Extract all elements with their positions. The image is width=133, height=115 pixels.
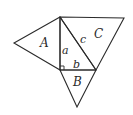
triangle-A xyxy=(14,17,60,70)
label-B: B xyxy=(72,75,82,89)
label-b: b xyxy=(73,58,80,71)
triangle-C xyxy=(60,17,124,70)
label-a: a xyxy=(62,44,69,57)
right-angle-marker xyxy=(60,66,64,70)
label-C: C xyxy=(94,27,103,41)
label-A: A xyxy=(39,36,49,50)
pythagorean-diagram: A C B a b c xyxy=(0,0,133,115)
label-c: c xyxy=(80,33,86,46)
